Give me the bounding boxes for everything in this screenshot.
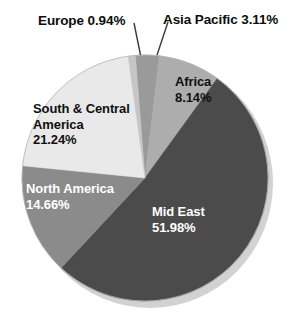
slice-label-africa-name: Africa [175, 74, 211, 90]
slice-label-mid-east-name: Mid East [152, 204, 205, 220]
slice-label-north-america: North America 14.66% [26, 181, 114, 212]
slice-label-asia-pacific: Asia Pacific 3.11% [163, 12, 278, 27]
slice-label-europe: Europe 0.94% [38, 13, 125, 28]
slice-label-mid-east: Mid East 51.98% [152, 204, 205, 235]
slice-label-south-central-line2: America [33, 117, 130, 133]
slice-label-south-central-value: 21.24% [33, 132, 130, 148]
slice-label-mid-east-value: 51.98% [152, 220, 205, 236]
slice-label-south-central-america: South & Central America 21.24% [33, 101, 130, 148]
slice-label-north-america-value: 14.66% [26, 197, 114, 213]
slice-label-africa: Africa 8.14% [175, 74, 211, 105]
pie-chart-canvas [0, 0, 291, 334]
slice-label-north-america-name: North America [26, 181, 114, 197]
leader-line-europe [134, 23, 141, 55]
pie-chart: Europe 0.94% Asia Pacific 3.11% Africa 8… [0, 0, 291, 334]
slice-label-africa-value: 8.14% [175, 90, 211, 106]
pie-slices-group [22, 55, 268, 301]
slice-label-south-central-line1: South & Central [33, 101, 130, 117]
